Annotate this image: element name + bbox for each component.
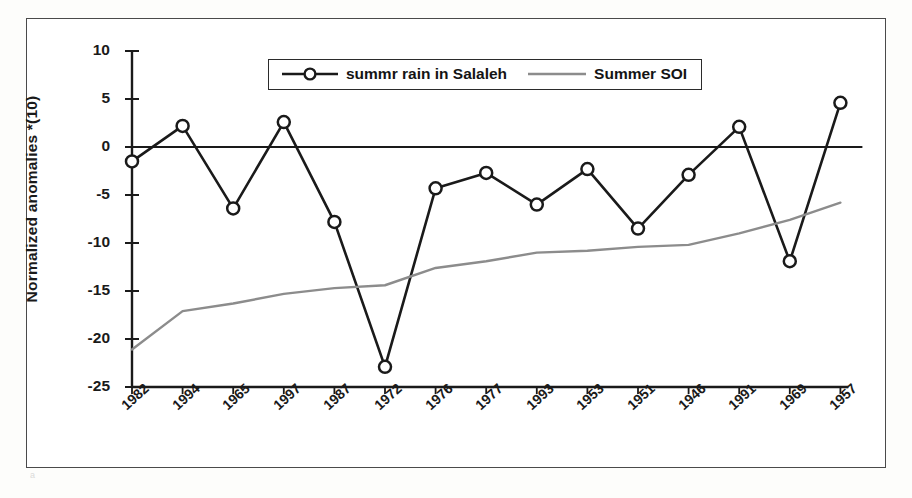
data-point-marker [531, 199, 543, 211]
data-point-marker [834, 97, 846, 109]
data-point-marker [126, 155, 138, 167]
chart-figure: Normalized anomalies *(10) 1050-5-10-15-… [0, 0, 912, 498]
data-point-marker [227, 202, 239, 214]
data-point-marker [480, 167, 492, 179]
data-point-marker [733, 121, 745, 133]
legend-line-icon [527, 66, 587, 82]
data-point-marker [632, 223, 644, 235]
data-point-marker [278, 116, 290, 128]
data-point-marker [430, 182, 442, 194]
data-point-marker [683, 169, 695, 181]
legend-item-soi: Summer SOI [527, 65, 687, 83]
chart-legend: summr rain in Salaleh Summer SOI [268, 59, 702, 90]
series-line-soi [132, 203, 840, 350]
legend-label-soi: Summer SOI [594, 65, 687, 83]
data-point-marker [328, 216, 340, 228]
legend-item-rain: summr rain in Salaleh [281, 65, 507, 83]
data-point-marker [379, 361, 391, 373]
scan-artifact: a [30, 470, 52, 480]
legend-label-rain: summr rain in Salaleh [346, 65, 507, 83]
legend-line-marker-icon [281, 66, 339, 82]
data-point-marker [581, 163, 593, 175]
data-point-marker [177, 120, 189, 132]
data-point-marker [784, 255, 796, 267]
